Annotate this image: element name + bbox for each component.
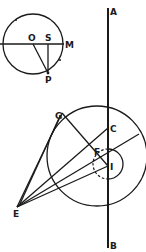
- geometry-diagram: A B O S M P G C F I E: [0, 0, 146, 252]
- label-s: S: [45, 33, 51, 43]
- segment-op: [33, 44, 48, 73]
- label-e: E: [13, 209, 19, 219]
- line-ec: [17, 128, 108, 207]
- label-o: O: [28, 33, 36, 43]
- line-eg-tangent: [19, 116, 60, 206]
- label-b: B: [110, 241, 117, 251]
- line-ei: [17, 166, 108, 207]
- arc-mark-icon: [15, 19, 17, 21]
- label-p: P: [45, 75, 52, 85]
- point-p: [47, 72, 50, 75]
- label-g: G: [55, 111, 62, 121]
- label-i: I: [110, 162, 113, 172]
- label-f: F: [94, 147, 100, 157]
- label-c: C: [110, 124, 117, 134]
- label-a: A: [110, 7, 117, 17]
- line-gi: [62, 113, 108, 166]
- arc-mark-icon: [59, 59, 61, 61]
- label-m: M: [65, 40, 74, 50]
